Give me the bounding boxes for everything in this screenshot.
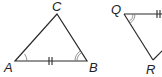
side-qr	[124, 14, 153, 60]
triangle-abc-outline	[15, 14, 87, 61]
angle-b-double-arc	[75, 51, 82, 61]
angle-q-double-arc	[129, 14, 135, 23]
triangle-abc: A B C	[3, 0, 98, 75]
vertex-label-c: C	[52, 0, 62, 14]
vertex-label-r: R	[146, 62, 155, 77]
triangle-diagram: A B C Q R	[0, 0, 162, 77]
angle-a-single-arc	[25, 54, 27, 61]
side-r-right	[153, 50, 162, 60]
vertex-label-b: B	[89, 60, 98, 75]
triangle-qr: Q R	[111, 2, 162, 77]
vertex-label-a: A	[3, 60, 13, 75]
vertex-label-q: Q	[111, 2, 121, 17]
